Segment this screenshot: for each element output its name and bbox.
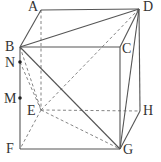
label-e: E	[27, 104, 36, 118]
label-d: D	[143, 0, 153, 14]
label-a: A	[28, 0, 38, 14]
point-n	[18, 60, 22, 64]
edge-dh	[139, 9, 140, 111]
edge-be	[20, 47, 41, 110]
label-n: N	[5, 56, 15, 70]
edge-bg	[20, 47, 120, 149]
label-f: F	[6, 142, 14, 156]
edge-dg	[120, 9, 139, 149]
cube-diagram: A D B C N M E H F G	[0, 0, 161, 162]
cube-figure	[0, 0, 161, 162]
visible-edges	[20, 9, 140, 149]
edge-eg	[41, 110, 120, 149]
label-m: M	[4, 92, 16, 106]
label-b: B	[5, 40, 14, 54]
label-g: G	[123, 143, 133, 157]
label-c: C	[122, 42, 131, 56]
edge-ad	[41, 9, 139, 10]
point-m	[18, 96, 22, 100]
hidden-edges	[20, 9, 140, 149]
label-h: H	[143, 104, 153, 118]
